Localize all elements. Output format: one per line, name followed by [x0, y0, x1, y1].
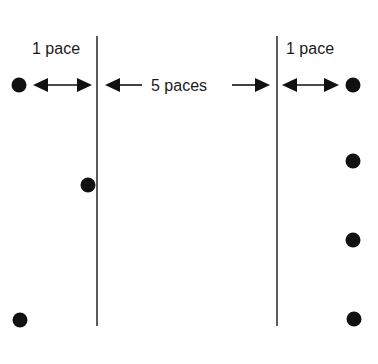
left-gap-label: 1 pace — [32, 41, 80, 57]
left-double-arrow-icon — [33, 78, 92, 92]
right-double-arrow-icon — [282, 78, 339, 92]
dot-left-top — [12, 78, 27, 93]
pace-spacing-diagram: 1 pace 5 paces 1 pace — [0, 0, 378, 364]
dot-right-3 — [346, 233, 361, 248]
dot-left-bottom — [13, 313, 28, 328]
right-arrow-5-paces-icon — [232, 78, 270, 92]
dot-right-top — [346, 78, 361, 93]
right-gap-label: 1 pace — [286, 41, 334, 57]
dot-right-2 — [346, 154, 361, 169]
dot-left-middle — [81, 178, 96, 193]
left-arrow-5-paces-icon — [105, 78, 142, 92]
middle-gap-label: 5 paces — [151, 78, 207, 94]
dot-right-bottom — [347, 312, 362, 327]
